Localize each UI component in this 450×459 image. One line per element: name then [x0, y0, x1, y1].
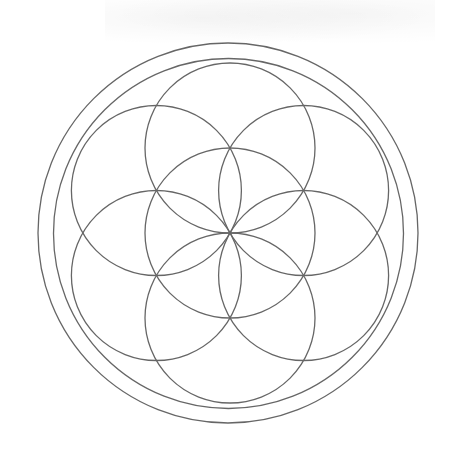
seed-of-life-diagram — [0, 0, 450, 459]
petal-circles — [71, 63, 388, 403]
